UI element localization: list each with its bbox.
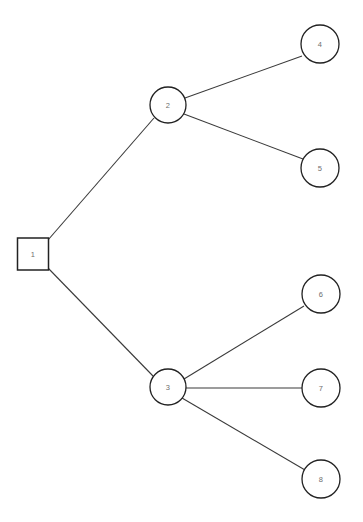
node-6[interactable]: 6 bbox=[302, 275, 340, 313]
node-2[interactable]: 2 bbox=[150, 87, 186, 123]
node-1-label: 1 bbox=[31, 250, 35, 259]
node-1[interactable]: 1 bbox=[18, 238, 49, 270]
diagram-canvas: 12345678 bbox=[0, 0, 363, 522]
edge-1-to-3 bbox=[48, 268, 153, 376]
node-7-label: 7 bbox=[319, 384, 323, 393]
tree-graph: 12345678 bbox=[0, 0, 363, 522]
node-5[interactable]: 5 bbox=[301, 149, 339, 187]
node-4[interactable]: 4 bbox=[301, 25, 339, 63]
nodes-layer: 12345678 bbox=[18, 25, 341, 498]
node-8[interactable]: 8 bbox=[302, 460, 340, 498]
node-8-label: 8 bbox=[319, 475, 323, 484]
node-6-label: 6 bbox=[319, 290, 323, 299]
node-5-label: 5 bbox=[318, 164, 322, 173]
edge-3-to-6 bbox=[184, 306, 304, 379]
edge-1-to-2 bbox=[48, 118, 154, 240]
edge-2-to-5 bbox=[184, 114, 303, 159]
node-2-label: 2 bbox=[166, 101, 170, 110]
node-7[interactable]: 7 bbox=[302, 369, 340, 407]
node-3[interactable]: 3 bbox=[150, 369, 186, 405]
edge-3-to-8 bbox=[182, 398, 305, 470]
node-4-label: 4 bbox=[318, 40, 322, 49]
node-3-label: 3 bbox=[166, 383, 170, 392]
edge-2-to-4 bbox=[185, 56, 302, 98]
